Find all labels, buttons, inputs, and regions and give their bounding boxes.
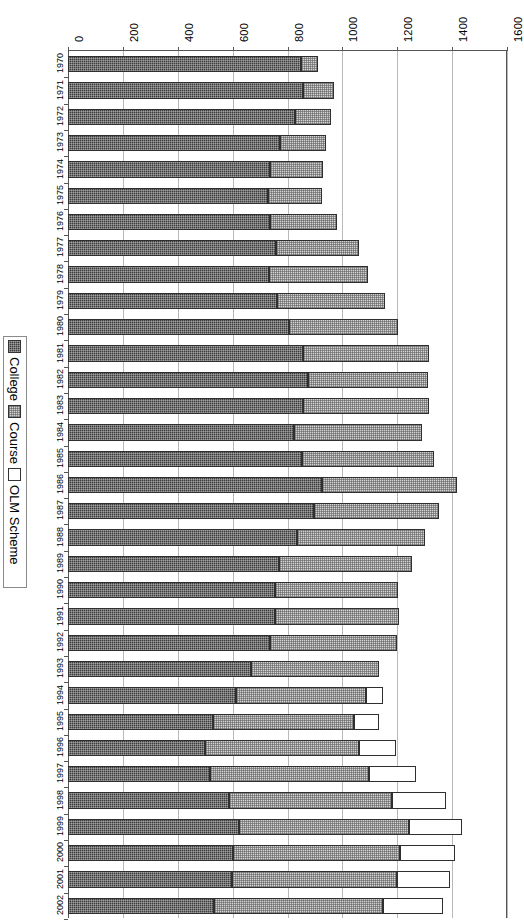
bar-segment-course-1985[interactable] (302, 451, 434, 467)
bar-segment-course-2002[interactable] (214, 898, 383, 914)
bar-segment-college-1971[interactable] (68, 82, 303, 98)
bar-row[interactable] (68, 372, 506, 388)
bar-segment-college-1992[interactable] (68, 635, 270, 651)
bar-segment-college-1986[interactable] (68, 477, 322, 493)
bar-segment-college-1989[interactable] (68, 556, 279, 572)
bar-segment-course-1982[interactable] (308, 372, 429, 388)
bar-row[interactable] (68, 635, 506, 651)
bar-segment-college-1996[interactable] (68, 740, 205, 756)
bar-segment-course-1971[interactable] (303, 82, 334, 98)
bar-segment-course-1988[interactable] (297, 529, 426, 545)
bar-row[interactable] (68, 556, 506, 572)
bar-segment-course-1972[interactable] (295, 109, 331, 125)
bar-row[interactable] (68, 766, 506, 782)
bar-row[interactable] (68, 56, 506, 72)
bar-segment-olm-scheme-1997[interactable] (369, 766, 416, 782)
bar-segment-course-1989[interactable] (279, 556, 412, 572)
bar-segment-course-1991[interactable] (275, 608, 399, 624)
bar-segment-college-1975[interactable] (68, 188, 268, 204)
bar-segment-course-1994[interactable] (236, 687, 366, 703)
bar-row[interactable] (68, 503, 506, 519)
bar-row[interactable] (68, 424, 506, 440)
bar-segment-college-1997[interactable] (68, 766, 210, 782)
bar-segment-college-1976[interactable] (68, 214, 270, 230)
bar-row[interactable] (68, 345, 506, 361)
bar-segment-college-1979[interactable] (68, 293, 277, 309)
bar-segment-course-1990[interactable] (275, 582, 398, 598)
bar-segment-college-1999[interactable] (68, 819, 239, 835)
bar-segment-college-1980[interactable] (68, 319, 289, 335)
bar-segment-college-1985[interactable] (68, 451, 302, 467)
bar-row[interactable] (68, 214, 506, 230)
bar-row[interactable] (68, 451, 506, 467)
bar-row[interactable] (68, 714, 506, 730)
bar-segment-college-1987[interactable] (68, 503, 314, 519)
bar-segment-college-2002[interactable] (68, 898, 214, 914)
bar-segment-college-1995[interactable] (68, 714, 213, 730)
bar-segment-course-1981[interactable] (303, 345, 429, 361)
bar-segment-course-1996[interactable] (205, 740, 359, 756)
bar-segment-course-1992[interactable] (270, 635, 396, 651)
bar-segment-college-2001[interactable] (68, 871, 232, 887)
bar-row[interactable] (68, 898, 506, 914)
bar-row[interactable] (68, 792, 506, 808)
bar-segment-olm-scheme-1998[interactable] (392, 792, 446, 808)
bar-row[interactable] (68, 109, 506, 125)
bar-row[interactable] (68, 319, 506, 335)
bar-segment-course-2001[interactable] (232, 871, 397, 887)
bar-segment-course-1987[interactable] (314, 503, 439, 519)
bar-segment-course-1970[interactable] (301, 56, 318, 72)
bar-row[interactable] (68, 398, 506, 414)
bar-segment-olm-scheme-1999[interactable] (409, 819, 463, 835)
bar-row[interactable] (68, 582, 506, 598)
bar-segment-course-1986[interactable] (322, 477, 456, 493)
bar-segment-course-1973[interactable] (280, 135, 327, 151)
bar-row[interactable] (68, 135, 506, 151)
bar-segment-college-1990[interactable] (68, 582, 275, 598)
bar-segment-olm-scheme-1996[interactable] (359, 740, 396, 756)
bar-segment-course-1993[interactable] (251, 661, 379, 677)
bar-segment-course-1974[interactable] (270, 161, 323, 177)
bar-row[interactable] (68, 188, 506, 204)
bar-segment-course-2000[interactable] (233, 845, 399, 861)
bar-segment-college-1973[interactable] (68, 135, 280, 151)
bar-row[interactable] (68, 740, 506, 756)
bar-row[interactable] (68, 161, 506, 177)
bar-segment-college-1974[interactable] (68, 161, 270, 177)
bar-segment-college-1993[interactable] (68, 661, 251, 677)
bar-segment-course-1975[interactable] (268, 188, 322, 204)
bar-row[interactable] (68, 266, 506, 282)
bar-segment-course-1999[interactable] (239, 819, 409, 835)
bar-row[interactable] (68, 240, 506, 256)
bar-segment-course-1977[interactable] (276, 240, 359, 256)
bar-segment-olm-scheme-2000[interactable] (400, 845, 455, 861)
bar-row[interactable] (68, 608, 506, 624)
bar-segment-college-1988[interactable] (68, 529, 297, 545)
bar-row[interactable] (68, 529, 506, 545)
bar-segment-course-1984[interactable] (294, 424, 422, 440)
bar-segment-college-1991[interactable] (68, 608, 275, 624)
bar-row[interactable] (68, 687, 506, 703)
bar-segment-college-1981[interactable] (68, 345, 303, 361)
bar-segment-college-1978[interactable] (68, 266, 269, 282)
bar-segment-olm-scheme-1995[interactable] (354, 714, 378, 730)
bar-segment-college-1982[interactable] (68, 372, 308, 388)
bar-segment-course-1995[interactable] (213, 714, 354, 730)
bar-segment-course-1997[interactable] (210, 766, 369, 782)
bar-segment-course-1998[interactable] (229, 792, 391, 808)
bar-segment-college-1977[interactable] (68, 240, 276, 256)
bar-row[interactable] (68, 293, 506, 309)
bar-segment-olm-scheme-1994[interactable] (366, 687, 383, 703)
bar-segment-course-1983[interactable] (303, 398, 429, 414)
bar-segment-college-1984[interactable] (68, 424, 294, 440)
bar-segment-course-1978[interactable] (269, 266, 368, 282)
bar-segment-college-1994[interactable] (68, 687, 236, 703)
bar-segment-course-1980[interactable] (289, 319, 398, 335)
bar-row[interactable] (68, 661, 506, 677)
bar-segment-course-1979[interactable] (277, 293, 385, 309)
bar-segment-olm-scheme-2001[interactable] (397, 871, 450, 887)
bar-segment-college-2000[interactable] (68, 845, 233, 861)
bar-segment-college-1998[interactable] (68, 792, 229, 808)
bar-row[interactable] (68, 819, 506, 835)
bar-segment-olm-scheme-2002[interactable] (383, 898, 443, 914)
